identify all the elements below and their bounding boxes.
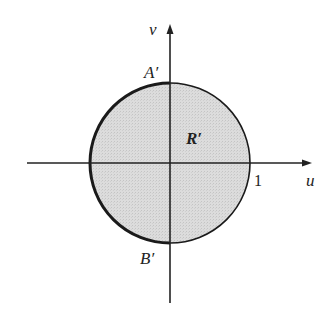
uv-plane-diagram: v u A′ B′ R′ 1 xyxy=(0,0,331,322)
point-a-prime-label: A′ xyxy=(143,63,158,82)
radius-tick-label: 1 xyxy=(254,172,262,189)
v-axis-arrow-icon xyxy=(167,24,174,34)
point-b-prime-label: B′ xyxy=(140,249,154,268)
u-axis-arrow-icon xyxy=(302,160,312,167)
v-axis-label: v xyxy=(149,20,157,39)
region-label: R′ xyxy=(185,129,202,148)
u-axis-label: u xyxy=(306,171,315,190)
